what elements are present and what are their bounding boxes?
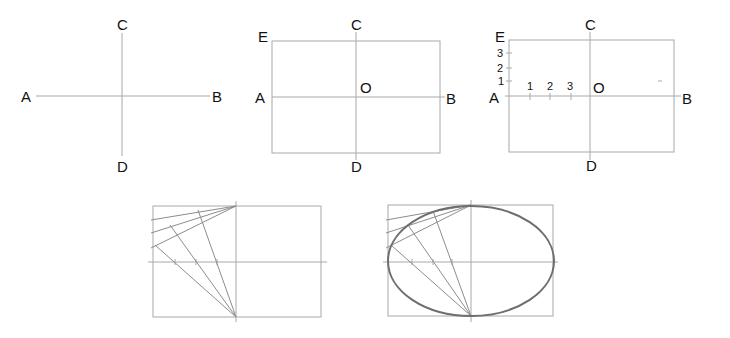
label-d: D: [117, 158, 128, 175]
label-d: D: [351, 158, 362, 175]
label-h1: 1: [527, 80, 533, 92]
label-b: B: [212, 88, 222, 105]
step5-ellipse: [383, 200, 558, 322]
label-e: E: [258, 28, 268, 45]
label-v1: 1: [498, 75, 504, 87]
ray-bottom-3: [198, 210, 236, 317]
step4-rays: [148, 201, 327, 322]
label-b: B: [682, 90, 692, 107]
step1-axes: A B C D: [21, 16, 222, 175]
label-c: C: [351, 16, 362, 33]
ray-bottom-1: [155, 245, 236, 317]
ray-bottom-2: [170, 225, 236, 317]
label-v3: 3: [497, 47, 503, 59]
label-c: C: [585, 16, 596, 33]
label-c: C: [117, 16, 128, 33]
label-a: A: [255, 89, 265, 106]
label-o: O: [360, 79, 372, 96]
ellipse-construction-diagram: A B C D A B C D E O 3 2 1 1 2 3 A B C D: [0, 0, 730, 338]
ray-top-3: [151, 206, 236, 248]
ray-top-3: [386, 205, 471, 248]
ray-bottom-1: [391, 245, 471, 316]
label-o: O: [593, 79, 605, 96]
label-b: B: [446, 90, 456, 107]
label-v2: 2: [497, 62, 503, 74]
step2-rectangle: A B C D E O: [255, 16, 456, 175]
label-h2: 2: [547, 80, 553, 92]
step3-divisions: 3 2 1 1 2 3 A B C D E O: [489, 16, 692, 174]
ray-top-2: [386, 205, 471, 233]
ray-top-1: [151, 206, 236, 220]
ray-top-2: [151, 206, 236, 233]
ray-bottom-3: [433, 211, 471, 316]
label-d: D: [586, 157, 597, 174]
label-a: A: [489, 89, 499, 106]
label-a: A: [21, 88, 31, 105]
label-h3: 3: [567, 80, 573, 92]
label-e: E: [495, 28, 505, 45]
